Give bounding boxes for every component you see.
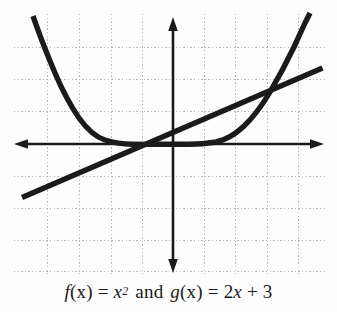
graph-figure: f(x) = x2andg(x) = 2x + 3 (0, 0, 337, 312)
coordinate-plane-plot (0, 0, 337, 312)
caption-equals-2: = (203, 281, 224, 303)
x-axis-arrow-right (310, 139, 324, 149)
caption-g-body: 2x + 3 (224, 281, 273, 303)
y-axis-arrow-up (168, 17, 178, 31)
curve-f-parabola (33, 13, 310, 144)
caption-f-arg: (x) (70, 281, 93, 303)
x-axis-arrow-left (14, 139, 28, 149)
caption-f-body-base: x (114, 281, 123, 303)
y-axis-arrow-down (168, 259, 178, 273)
caption-equals-1: = (93, 281, 114, 303)
caption-conjunction: and (135, 281, 163, 303)
caption-g-arg: (x) (180, 281, 203, 303)
caption-g-name: g (170, 281, 180, 303)
figure-caption: f(x) = x2andg(x) = 2x + 3 (0, 272, 337, 312)
